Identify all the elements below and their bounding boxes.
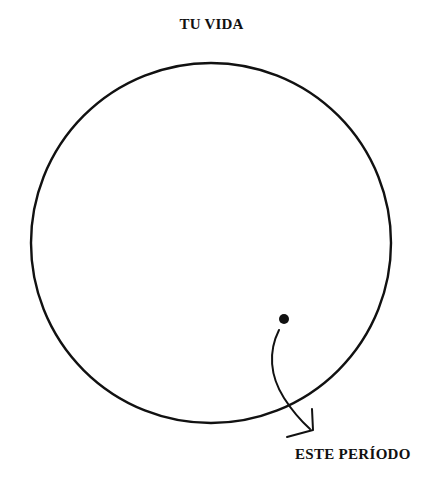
pointer-arrow-head: [287, 409, 313, 437]
life-circle: [31, 63, 391, 423]
pointer-arrow-shaft: [272, 330, 310, 429]
current-period-dot: [279, 314, 289, 324]
life-diagram: [0, 0, 438, 489]
current-period-label: ESTE PERÍODO: [295, 446, 411, 463]
